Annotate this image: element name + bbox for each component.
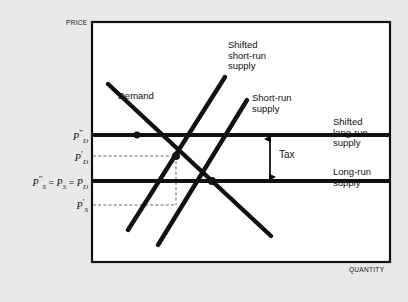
label-shifted-short-run-supply: Shifted short-run supply xyxy=(228,40,266,72)
x-axis-title: QUANTITY xyxy=(349,266,384,273)
equilibrium-point-initial xyxy=(208,177,216,185)
label-long-run-supply: Long-run supply xyxy=(333,167,371,188)
price-tick-pd-double-prime: P″D xyxy=(56,128,88,145)
label-tax: Tax xyxy=(279,150,295,161)
price-tick-ps-prime: P′S xyxy=(56,197,88,214)
price-tick-ps-identity: P″S = PS = PD xyxy=(8,174,88,191)
label-short-run-supply: Short-run supply xyxy=(252,93,292,114)
label-demand: Demand xyxy=(118,91,154,102)
y-axis-title: PRICE xyxy=(66,19,87,26)
equilibrium-point-long-run xyxy=(134,132,141,139)
equilibrium-point-short-run xyxy=(172,152,180,160)
label-shifted-long-run-supply: Shifted long-run supply xyxy=(333,117,368,149)
price-tick-pd-prime: P′D xyxy=(56,149,88,166)
